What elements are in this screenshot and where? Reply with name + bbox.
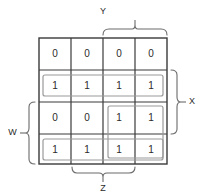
kmap-cell-r3c4: 1 [135,102,167,134]
kmap-cell-r1c1: 0 [39,38,71,70]
kmap-cell-r3c3: 1 [103,102,135,134]
brace-right-X [171,70,181,134]
variable-label-Z: Z [96,183,110,193]
brace-left-W [25,102,35,164]
kmap-cell-r3c1: 0 [39,102,71,134]
kmap-cell-r2c4: 1 [135,70,167,102]
kmap-cell-r4c2: 1 [71,134,103,166]
kmap-cell-r2c3: 1 [103,70,135,102]
kmap-cell-r2c1: 1 [39,70,71,102]
brace-bottom-Z [72,167,135,177]
kmap-cell-r3c2: 0 [71,102,103,134]
variable-label-W: W [6,127,19,137]
kmap-cell-r4c3: 1 [103,134,135,166]
kmap-cell-r1c3: 0 [103,38,135,70]
kmap-cell-r4c4: 1 [135,134,167,166]
kmap-cell-r1c4: 0 [135,38,167,70]
variable-label-X: X [186,96,198,106]
variable-label-Y: Y [96,6,110,16]
kmap-cell-r1c2: 0 [71,38,103,70]
brace-top-Y [103,25,167,35]
kmap-cell-r4c1: 1 [39,134,71,166]
karnaugh-map-diagram: 0 0 0 0 1 1 1 1 0 0 1 1 1 1 1 1 Y X W Z [0,0,198,196]
kmap-cell-r2c2: 1 [71,70,103,102]
